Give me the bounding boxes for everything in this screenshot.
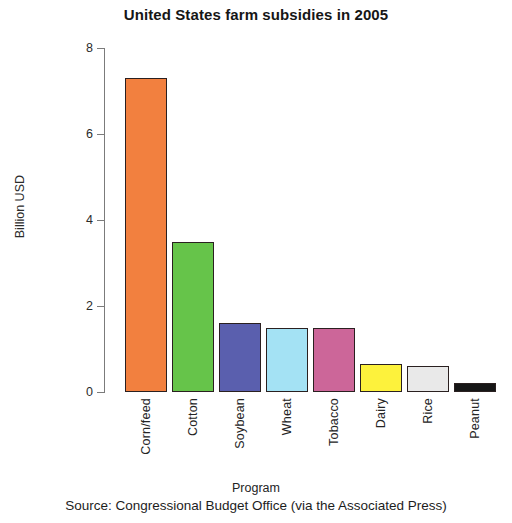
- bar: [407, 366, 449, 392]
- bar: [454, 383, 496, 392]
- y-tick-label: 4: [69, 213, 93, 227]
- y-tick-label: 6: [69, 127, 93, 141]
- bar: [125, 78, 167, 392]
- y-tick-label: 8: [69, 41, 93, 55]
- bar: [266, 328, 308, 393]
- x-tick-label-text: Rice: [421, 398, 435, 424]
- x-tick-label-text: Soybean: [233, 398, 247, 449]
- y-tick-mark: [97, 392, 105, 393]
- y-tick-label: 2: [69, 299, 93, 313]
- y-tick-label: 0: [69, 385, 93, 399]
- x-tick-label-text: Peanut: [468, 398, 482, 439]
- chart-figure: United States farm subsidies in 2005 024…: [0, 0, 512, 523]
- y-axis-title: Billion USD: [13, 175, 27, 238]
- x-tick-label-text: Wheat: [280, 398, 294, 435]
- chart-title: United States farm subsidies in 2005: [0, 6, 512, 23]
- x-axis-title: Program: [0, 481, 512, 495]
- bar: [360, 364, 402, 392]
- x-tick-label-text: Cotton: [186, 398, 200, 436]
- plot-area: [104, 48, 502, 392]
- bar: [219, 323, 261, 392]
- source-caption: Source: Congressional Budget Office (via…: [0, 498, 512, 513]
- x-tick-label-text: Corn/feed: [139, 398, 153, 455]
- bar: [172, 242, 214, 393]
- bar: [313, 328, 355, 393]
- x-tick-label-text: Tobacco: [327, 398, 341, 446]
- x-tick-label-text: Dairy: [374, 398, 388, 428]
